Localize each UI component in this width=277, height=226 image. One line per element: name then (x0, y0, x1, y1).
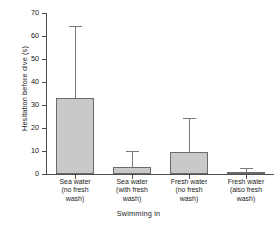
y-tick-label: 20 (31, 123, 39, 132)
x-category-label: Fresh water(no freshwash) (160, 178, 218, 203)
y-tick-label: 10 (31, 146, 39, 155)
y-tick: 50 (42, 59, 46, 60)
y-tick-label: 40 (31, 77, 39, 86)
x-category-label: Sea water(no freshwash) (46, 178, 104, 203)
y-tick: 30 (42, 105, 46, 106)
x-category-label-line: Fresh water (160, 178, 218, 186)
error-bar-line (132, 151, 133, 167)
y-tick: 40 (42, 82, 46, 83)
x-axis-line (46, 174, 274, 175)
bar-chart: Hesitation before dive (s) 0102030405060… (0, 0, 277, 226)
x-category-label-line: wash) (217, 195, 275, 203)
y-tick: 20 (42, 128, 46, 129)
x-category-label-line: wash) (160, 195, 218, 203)
bar (56, 98, 94, 174)
x-category-label-line: Fresh water (217, 178, 275, 186)
error-bar-cap (240, 168, 253, 169)
x-category-label-line: wash) (46, 195, 104, 203)
x-category-label-line: (no fresh (46, 186, 104, 194)
y-axis-label: Hesitation before dive (s) (20, 9, 29, 169)
y-tick: 0 (42, 174, 46, 175)
error-bar-line (189, 118, 190, 153)
bar (170, 152, 208, 174)
x-category-label: Fresh water(also freshwash) (217, 178, 275, 203)
x-category-label-line: (with fresh (103, 186, 161, 194)
y-tick-label: 70 (31, 8, 39, 17)
error-bar-line (75, 26, 76, 98)
error-bar-cap (69, 26, 82, 27)
bar (227, 172, 265, 174)
y-tick-label: 60 (31, 31, 39, 40)
y-tick: 60 (42, 36, 46, 37)
x-category-label-line: (also fresh (217, 186, 275, 194)
bar (113, 167, 151, 174)
y-tick-label: 50 (31, 54, 39, 63)
x-category-label-line: (no fresh (160, 186, 218, 194)
error-bar-cap (126, 151, 139, 152)
x-category-label-line: Sea water (103, 178, 161, 186)
y-axis-line (46, 13, 47, 174)
y-tick: 10 (42, 151, 46, 152)
error-bar-cap (183, 118, 196, 119)
x-axis-label: Swimming in (0, 209, 277, 218)
x-category-label: Sea water(with freshwash) (103, 178, 161, 203)
y-tick-label: 0 (35, 169, 39, 178)
x-category-label-line: wash) (103, 195, 161, 203)
plot-area: 010203040506070 (46, 13, 274, 174)
x-category-label-line: Sea water (46, 178, 104, 186)
y-tick: 70 (42, 13, 46, 14)
y-tick-label: 30 (31, 100, 39, 109)
